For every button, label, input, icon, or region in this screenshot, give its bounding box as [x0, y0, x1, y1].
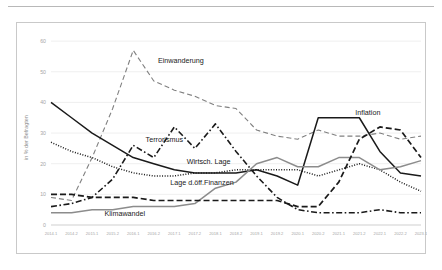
- x-axis-tick: 2018.2: [230, 231, 243, 236]
- x-axis-tick: 2015.1: [86, 231, 99, 236]
- x-axis-tick: 2020.1: [291, 231, 304, 236]
- series-label: Wirtsch. Lage: [187, 157, 231, 166]
- series-line: [51, 127, 421, 207]
- x-axis-tick: 2019.2: [271, 231, 284, 236]
- top-divider: [8, 6, 434, 7]
- y-axis-tick: 0: [43, 222, 46, 228]
- series-label: Terrorismus: [146, 135, 184, 144]
- x-axis-tick: 2018.1: [209, 231, 222, 236]
- x-axis-tick: 2020.2: [312, 231, 325, 236]
- series-line: [51, 158, 421, 213]
- x-axis-tick: 2016.2: [148, 231, 161, 236]
- x-axis-tick: 2022.2: [394, 231, 407, 236]
- series-line: [51, 50, 421, 200]
- y-axis-tick: 30: [40, 130, 46, 136]
- y-axis-tick: 20: [40, 161, 46, 167]
- series-line: [51, 142, 421, 191]
- x-axis-tick: 2014.2: [65, 231, 78, 236]
- series-label: Inflation: [355, 108, 380, 117]
- y-axis-tick: 40: [40, 99, 46, 105]
- line-chart: 01020304050602014.12014.22015.12015.2201…: [17, 23, 427, 255]
- x-axis-tick: 2023.1: [415, 231, 427, 236]
- chart-frame: 01020304050602014.12014.22015.12015.2201…: [16, 22, 426, 254]
- y-axis-label: in % der Befragten: [23, 115, 29, 160]
- series-label: Einwanderung: [158, 56, 204, 65]
- series-label: Klimawandel: [104, 209, 145, 218]
- x-axis-tick: 2015.2: [106, 231, 119, 236]
- x-axis-tick: 2016.1: [127, 231, 140, 236]
- x-axis-tick: 2021.2: [353, 231, 366, 236]
- x-axis-tick: 2019.1: [250, 231, 263, 236]
- x-axis-tick: 2014.1: [45, 231, 58, 236]
- series-line: [51, 124, 421, 213]
- y-axis-tick: 50: [40, 69, 46, 75]
- x-axis-tick: 2017.1: [168, 231, 181, 236]
- series-label: Lage d.öff.Finanzen: [170, 178, 233, 187]
- x-axis-tick: 2017.2: [189, 231, 202, 236]
- y-axis-tick: 60: [40, 38, 46, 44]
- x-axis-tick: 2022.1: [374, 231, 387, 236]
- y-axis-tick: 10: [40, 191, 46, 197]
- x-axis-tick: 2021.1: [333, 231, 346, 236]
